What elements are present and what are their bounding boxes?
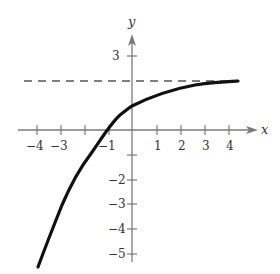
y-tick-label: 3	[112, 49, 120, 63]
x-tick-labels: −4 −3 −1 1 2 3 4	[26, 139, 234, 153]
x-tick-label: 2	[178, 139, 186, 153]
y-tick-label: −2	[108, 173, 126, 187]
y-tick-label: −4	[108, 222, 126, 236]
function-curve	[38, 81, 238, 267]
y-tick-label: −5	[108, 247, 126, 261]
graph: x y −4 −3 −1 1 2 3 4 3 −2 −3 −4 −5	[0, 0, 280, 274]
y-axis-label: y	[127, 14, 136, 29]
x-tick-label: 4	[226, 139, 234, 153]
x-tick-label: −3	[50, 139, 68, 153]
x-tick-label: 3	[202, 139, 210, 153]
x-tick-label: −4	[26, 139, 44, 153]
x-axis-label: x	[261, 122, 269, 137]
x-tick-label: 1	[154, 139, 162, 153]
y-tick-label: −3	[108, 197, 126, 211]
